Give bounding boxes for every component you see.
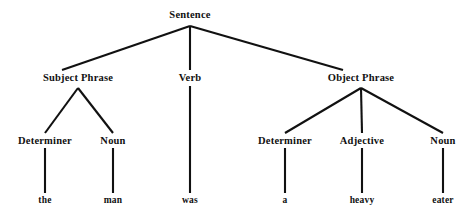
tree-edges-layer (0, 0, 476, 220)
tree-node-sentence: Sentence (169, 10, 210, 21)
tree-leaf-was: was (182, 196, 198, 206)
tree-leaf-heavy: heavy (350, 196, 375, 206)
tree-edge (361, 88, 362, 133)
tree-leaf-a: a (283, 196, 288, 206)
tree-node-verb: Verb (179, 73, 202, 84)
tree-edge (78, 88, 113, 133)
tree-edge (45, 88, 78, 133)
tree-node-determiner-subject: Determiner (18, 136, 72, 147)
tree-node-adjective-object: Adjective (340, 136, 384, 147)
tree-leaf-man: man (104, 196, 123, 206)
tree-node-determiner-object: Determiner (258, 136, 312, 147)
tree-edge-group (45, 26, 443, 193)
tree-node-subject-phrase: Subject Phrase (43, 73, 113, 84)
tree-node-noun-object: Noun (430, 136, 455, 147)
syntax-tree-diagram: Sentence Subject Phrase Verb Object Phra… (0, 0, 476, 220)
tree-edge (190, 26, 343, 70)
tree-node-object-phrase: Object Phrase (328, 73, 394, 84)
tree-leaf-the: the (38, 196, 51, 206)
tree-edge (361, 88, 443, 133)
tree-edge (285, 88, 361, 133)
tree-leaf-eater: eater (432, 196, 454, 206)
tree-node-noun-subject: Noun (100, 136, 125, 147)
tree-edge (62, 26, 190, 70)
